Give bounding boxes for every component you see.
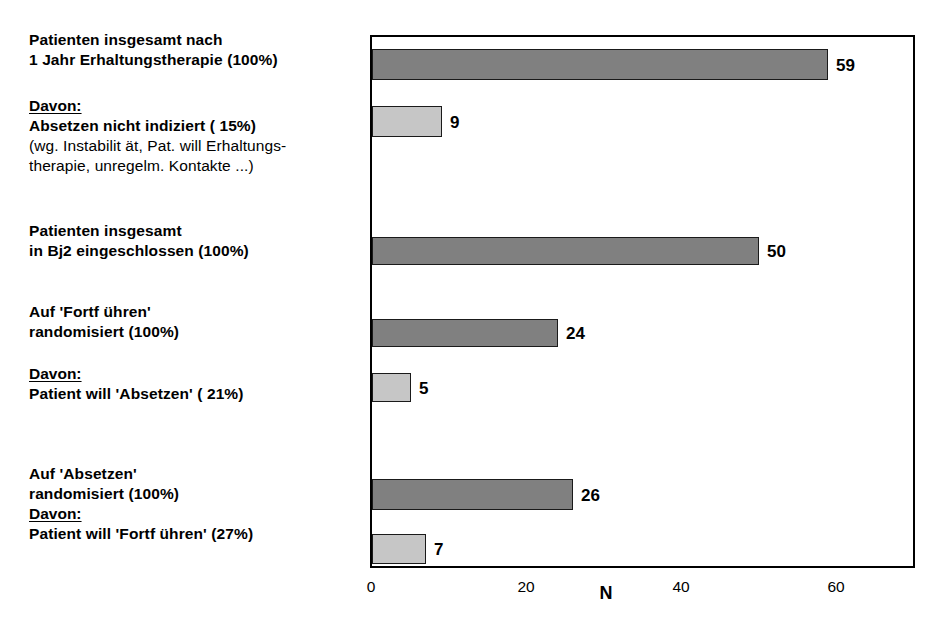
category-label-group-1: Patienten insgesamt nach 1 Jahr Erhaltun… [29, 30, 278, 70]
bar-total-1 [372, 49, 828, 80]
bar-total-3 [372, 319, 558, 347]
xtick-label-20: 20 [517, 578, 534, 596]
davon-text: Davon: [29, 97, 82, 114]
bar-value-label: 9 [450, 114, 459, 131]
label-line: therapie, unregelm. Kontakte ...) [29, 156, 286, 176]
label-line: Absetzen nicht indiziert ( 15%) [29, 116, 286, 136]
label-line: randomisiert (100%) [29, 322, 179, 342]
davon-text: Davon: [29, 365, 82, 382]
category-label-group-3: Auf 'Fortf ühren' randomisiert (100%) [29, 302, 179, 342]
label-line: Patient will 'Fortf ühren' (27%) [29, 524, 253, 544]
bar-value-label: 59 [836, 57, 855, 74]
bar-value-label: 26 [581, 487, 600, 504]
label-line: Patienten insgesamt nach [29, 30, 278, 50]
davon-underlined-label: Davon: [29, 504, 253, 524]
davon-text: Davon: [29, 505, 82, 522]
xtick-label-40: 40 [672, 578, 689, 596]
label-line: (wg. Instabilit ät, Pat. will Erhaltungs… [29, 136, 286, 156]
category-label-group-2: Patienten insgesamt in Bj2 eingeschlosse… [29, 221, 249, 261]
label-line: Auf 'Absetzen' [29, 464, 253, 484]
label-line: in Bj2 eingeschlossen (100%) [29, 241, 249, 261]
bar-total-2 [372, 237, 759, 265]
xtick-label-0: 0 [367, 578, 376, 596]
bar-subset-3 [372, 534, 426, 564]
bar-subset-1 [372, 106, 442, 137]
label-line: 1 Jahr Erhaltungstherapie (100%) [29, 50, 278, 70]
davon-underlined-label: Davon: [29, 96, 286, 116]
category-label-group-4: Auf 'Absetzen' randomisiert (100%) Davon… [29, 464, 253, 544]
bar-value-label: 24 [566, 325, 585, 342]
bar-value-label: 5 [419, 380, 428, 397]
x-axis-title: N [600, 583, 613, 604]
category-label-group-1-subset: Davon: Absetzen nicht indiziert ( 15%) (… [29, 96, 286, 176]
xtick-label-60: 60 [827, 578, 844, 596]
bar-subset-2 [372, 373, 411, 402]
bar-value-label: 50 [767, 243, 786, 260]
label-line: randomisiert (100%) [29, 484, 253, 504]
bar-total-4 [372, 479, 573, 510]
label-line: Patient will 'Absetzen' ( 21%) [29, 384, 244, 404]
label-line: Patienten insgesamt [29, 221, 249, 241]
plot-area: 59 9 50 24 5 26 7 [370, 35, 915, 568]
category-label-group-3-subset: Davon: Patient will 'Absetzen' ( 21%) [29, 364, 244, 404]
davon-underlined-label: Davon: [29, 364, 244, 384]
bar-value-label: 7 [434, 541, 443, 558]
bar-chart-figure: Patienten insgesamt nach 1 Jahr Erhaltun… [0, 0, 935, 637]
label-line: Auf 'Fortf ühren' [29, 302, 179, 322]
